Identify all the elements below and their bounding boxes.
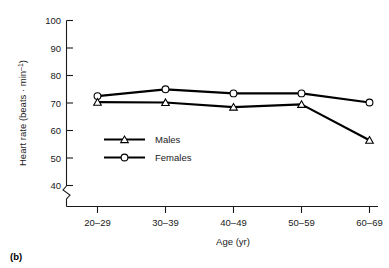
data-point-females-40-49	[230, 90, 237, 97]
x-tick-label-2: 30–39	[152, 217, 178, 228]
y-tick-label-40: 40	[50, 180, 61, 191]
y-tick-label-70: 70	[50, 98, 61, 109]
y-tick-label-90: 90	[50, 43, 61, 54]
legend-label-females: Females	[155, 152, 192, 163]
y-axis-title-main: Heart rate (beats · min	[17, 71, 28, 166]
y-axis-title-superscript: –1	[17, 63, 24, 71]
data-point-females-60-69	[366, 99, 373, 106]
heart-rate-line-chart: 100 90 80 70 60 50 40 20–29 30–39 40–49 …	[0, 0, 389, 268]
data-point-females-30-39	[162, 86, 169, 93]
y-axis-title: Heart rate (beats · min–1)	[17, 60, 29, 166]
y-tick-label-80: 80	[50, 70, 61, 81]
y-axis-title-tail: )	[17, 60, 28, 63]
data-point-females-50-59	[298, 90, 305, 97]
x-tick-label-5: 60–69	[356, 217, 382, 228]
chart-legend: Males Females	[104, 134, 192, 163]
y-axis-title-group: Heart rate (beats · min–1)	[17, 60, 29, 166]
y-tick-label-60: 60	[50, 125, 61, 136]
y-tick-label-50: 50	[50, 153, 61, 164]
y-axis-break-symbol	[63, 186, 70, 207]
legend-marker-circle-icon	[121, 154, 128, 161]
x-tick-label-3: 40–49	[220, 217, 246, 228]
legend-label-males: Males	[155, 134, 181, 145]
figure-panel-b: 100 90 80 70 60 50 40 20–29 30–39 40–49 …	[0, 0, 389, 268]
panel-label: (b)	[10, 251, 22, 262]
x-tick-label-4: 50–59	[288, 217, 314, 228]
x-axis-title: Age (yr)	[216, 236, 250, 247]
x-tick-label-1: 20–29	[84, 217, 110, 228]
y-tick-label-100: 100	[45, 15, 61, 26]
